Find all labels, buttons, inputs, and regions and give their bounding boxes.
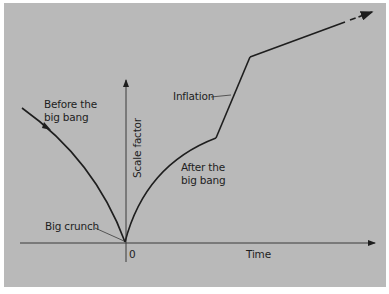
origin-label: 0 bbox=[129, 248, 135, 261]
expansion-dashed bbox=[350, 12, 372, 20]
time-axis-label: Time bbox=[246, 248, 271, 261]
big-crunch-label: Big crunch bbox=[45, 220, 99, 233]
scale-factor-axis-label: Scale factor bbox=[131, 118, 143, 178]
scale-factor-diagram bbox=[0, 0, 389, 294]
expansion-curve bbox=[250, 22, 345, 57]
after-label-line2: big bang bbox=[181, 174, 225, 187]
inflation-segment bbox=[216, 57, 250, 138]
before-label-line1: Before the bbox=[44, 98, 97, 111]
inflation-label: Inflation bbox=[173, 90, 214, 103]
after-label-line1: After the bbox=[181, 161, 225, 174]
before-label-line2: big bang bbox=[44, 111, 88, 124]
